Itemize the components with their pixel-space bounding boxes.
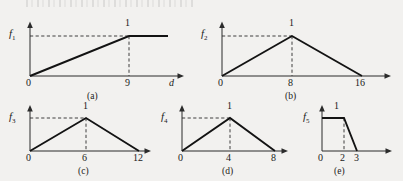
caption-a: (a) — [87, 92, 98, 102]
scan-artifact-text-strip — [26, 0, 196, 7]
axis-label-f3: f3 — [9, 111, 16, 125]
chart-panel-a: f1 1 0 9 d (a) — [8, 20, 193, 92]
chart-svg-e — [303, 105, 399, 155]
axis-label-f4: f4 — [161, 111, 168, 125]
curve-d — [182, 118, 275, 151]
y-axis-arrowhead-c — [27, 105, 33, 112]
x-axis-arrowhead-d — [282, 148, 289, 154]
xtick-d-4: 4 — [226, 153, 231, 163]
peak-label-a: 1 — [125, 18, 130, 28]
chart-svg-a — [8, 20, 193, 80]
xtick-b-16: 16 — [355, 78, 365, 88]
xtick-d-8: 8 — [271, 153, 276, 163]
caption-d: (d) — [222, 167, 233, 177]
xtick-e-0: 0 — [318, 153, 323, 163]
figure-root: f1 1 0 9 d (a) f2 1 0 8 16 (b) — [0, 0, 403, 181]
y-axis-arrowhead-d — [179, 105, 185, 112]
y-axis-arrowhead-b — [219, 22, 225, 29]
chart-svg-c — [8, 105, 158, 155]
xtick-c-6: 6 — [82, 153, 87, 163]
curve-e — [322, 118, 357, 151]
curve-c — [30, 118, 139, 151]
caption-e: (e) — [334, 167, 345, 177]
chart-panel-e: f5 1 0 2 3 (e) — [303, 105, 399, 169]
chart-panel-b: f2 1 0 8 16 (b) — [200, 20, 400, 92]
chart-svg-b — [200, 20, 400, 80]
x-axis-arrowhead-b — [385, 73, 392, 79]
xtick-a-9: 9 — [125, 78, 130, 88]
axis-label-f1: f1 — [9, 28, 16, 42]
y-axis-arrowhead-a — [27, 22, 33, 29]
x-axis-arrowhead-c — [145, 148, 152, 154]
axis-label-d: d — [169, 78, 174, 88]
axis-label-f5: f5 — [303, 111, 310, 125]
peak-label-c: 1 — [83, 101, 88, 111]
xtick-a-0: 0 — [26, 78, 31, 88]
xtick-c-0: 0 — [26, 153, 31, 163]
xtick-d-0: 0 — [178, 153, 183, 163]
chart-svg-d — [160, 105, 295, 155]
axis-label-f2: f2 — [201, 28, 208, 42]
peak-label-d: 1 — [227, 101, 232, 111]
chart-panel-c: f3 1 0 6 12 (c) — [8, 105, 158, 169]
chart-panel-d: f4 1 0 4 8 (d) — [160, 105, 295, 169]
x-axis-arrowhead-a — [178, 73, 185, 79]
xtick-e-2: 2 — [340, 153, 345, 163]
y-axis-arrowhead-e — [319, 105, 325, 112]
caption-c: (c) — [78, 167, 89, 177]
peak-label-e: 1 — [334, 101, 339, 111]
xtick-b-0: 0 — [218, 78, 223, 88]
x-axis-arrowhead-e — [386, 148, 393, 154]
caption-b: (b) — [285, 92, 296, 102]
xtick-e-3: 3 — [354, 153, 359, 163]
xtick-b-8: 8 — [288, 78, 293, 88]
curve-a — [30, 36, 168, 76]
xtick-c-12: 12 — [133, 153, 143, 163]
peak-label-b: 1 — [289, 18, 294, 28]
